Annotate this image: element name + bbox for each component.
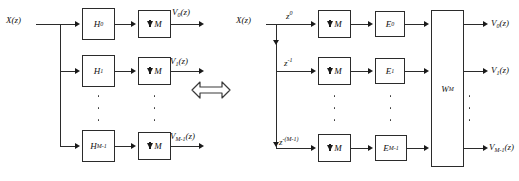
left-branch1-mid-arrowhead xyxy=(131,68,136,74)
right-output-arrowhead-1 xyxy=(483,68,488,74)
right-branchM-mid-arrowhead xyxy=(368,145,373,151)
right-branch0-delay-wire xyxy=(276,24,314,25)
right-polyphase-e0: E0 xyxy=(375,11,405,37)
left-downsampler-m: M xyxy=(138,132,171,160)
right-delay-label-0: z0 xyxy=(286,10,293,21)
right-input-label: X(z) xyxy=(236,16,251,25)
down-arrow-icon xyxy=(327,68,333,74)
left-branch0-tap-arrowhead xyxy=(75,21,80,27)
right-output-label-0: V0(z) xyxy=(491,19,509,29)
left-branch0-mid-arrowhead xyxy=(131,21,136,27)
right-branch1-delay-arrowhead xyxy=(311,68,316,74)
left-input-label: X(z) xyxy=(6,16,21,25)
left-filter-hm: HM-1 xyxy=(82,130,115,162)
left-branch0-out-wire xyxy=(171,24,202,25)
right-delay-label-1: z-1 xyxy=(284,57,293,68)
filter-bank-diagram: X(z) H0 M V0(z) H1 M V1(z) xyxy=(0,0,519,181)
left-branchM-out-wire xyxy=(171,146,202,147)
right-branchM-delay-arrowhead xyxy=(311,145,316,151)
right-polyphase-e1: E1 xyxy=(375,58,405,84)
right-delay-label-m: z-(M-1) xyxy=(279,136,299,147)
right-output-label-1: V1(z) xyxy=(491,66,509,76)
left-input-bus xyxy=(60,24,61,146)
right-bus-arrowhead-2 xyxy=(273,142,279,147)
left-branchM-mid-arrowhead xyxy=(131,143,136,149)
left-output-label-0: V0(z) xyxy=(172,8,190,18)
right-downsampler-0: M xyxy=(318,10,351,38)
down-arrow-icon xyxy=(327,21,333,27)
left-output-label-m: VM-1(z) xyxy=(170,132,195,142)
right-branchM-delay-wire xyxy=(276,148,314,149)
right-branch1-mid-arrowhead xyxy=(368,68,373,74)
left-downsampler-0: M xyxy=(138,10,171,38)
right-branch0-matrix-arrowhead xyxy=(424,21,429,27)
right-branch0-delay-arrowhead xyxy=(311,21,316,27)
right-downsampler-1: M xyxy=(318,57,351,85)
right-downsampler-m: M xyxy=(318,134,351,162)
right-bus-arrowhead-1 xyxy=(273,40,279,45)
right-output-arrowhead-m xyxy=(483,145,488,151)
right-output-label-m: VM-1(z) xyxy=(489,143,514,153)
left-filter-ellipsis xyxy=(97,95,100,121)
equivalence-arrow-icon xyxy=(190,78,232,106)
left-downsampler-ellipsis xyxy=(153,95,156,121)
right-downsampler-ellipsis xyxy=(333,95,336,121)
left-branch1-tap-arrowhead xyxy=(75,68,80,74)
down-arrow-icon xyxy=(147,68,153,74)
left-branchM-tap-arrowhead xyxy=(75,143,80,149)
right-branch1-delay-wire xyxy=(276,71,314,72)
left-filter-h1: H1 xyxy=(82,55,115,87)
left-downsampler-1: M xyxy=(138,57,171,85)
down-arrow-icon xyxy=(147,143,153,149)
left-branch1-out-arrowhead xyxy=(199,68,204,74)
left-output-label-1: V1(z) xyxy=(170,57,188,67)
right-branch1-matrix-arrowhead xyxy=(424,68,429,74)
right-output-arrowhead-0 xyxy=(483,21,488,27)
left-filter-h0: H0 xyxy=(82,8,115,40)
down-arrow-icon xyxy=(327,145,333,151)
dft-matrix-block: WM xyxy=(431,10,464,167)
down-arrow-icon xyxy=(147,21,153,27)
left-input-wire xyxy=(36,24,60,25)
right-branchM-matrix-arrowhead xyxy=(424,145,429,151)
left-branchM-out-arrowhead xyxy=(199,143,204,149)
right-output-ellipsis xyxy=(468,95,471,121)
left-branch1-out-wire xyxy=(171,71,202,72)
right-polyphase-ellipsis xyxy=(389,95,392,121)
left-branch0-out-arrowhead xyxy=(199,21,204,27)
right-polyphase-em: EM-1 xyxy=(375,135,407,161)
right-branch0-mid-arrowhead xyxy=(368,21,373,27)
